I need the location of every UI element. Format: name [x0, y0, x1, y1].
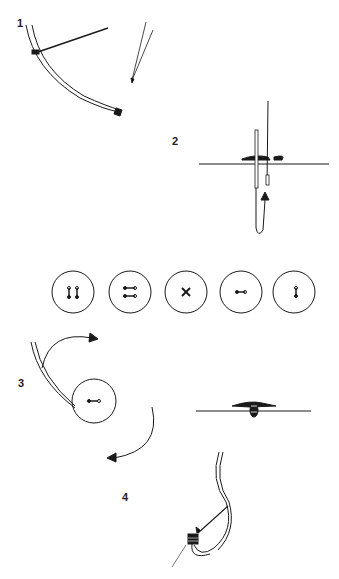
button-stitch-patterns: [52, 271, 315, 313]
step1-illustration: [26, 22, 153, 116]
step-number-3: 3: [18, 377, 24, 389]
step-number-4: 4: [122, 491, 129, 503]
step-number-2: 2: [172, 135, 178, 147]
sewing-diagram: 2 1 3: [0, 0, 339, 579]
step3-illustration: [31, 333, 311, 462]
step2-illustration: [199, 101, 329, 234]
step4-illustration: [172, 452, 231, 567]
step-number-1: 1: [17, 17, 23, 29]
